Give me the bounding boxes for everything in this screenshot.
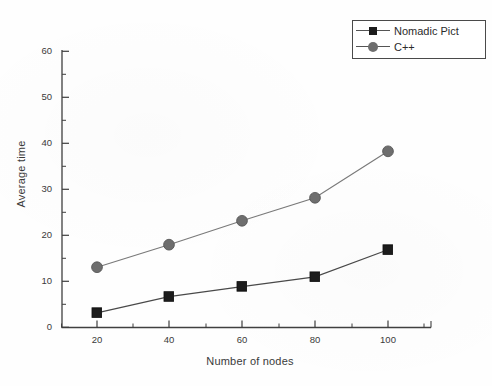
y-tick-label-40: 40: [26, 137, 52, 148]
legend-item-nomadic-pict[interactable]: Nomadic Pict: [356, 23, 481, 39]
data-point-cpp-40: [164, 239, 175, 250]
y-tick-label-30: 30: [26, 183, 52, 194]
data-point-nomadic-100: [383, 245, 393, 255]
y-tick-label-0: 0: [26, 321, 52, 332]
x-tick-label-20: 20: [80, 334, 114, 345]
data-point-nomadic-80: [310, 272, 320, 282]
series-markers-cpp: [92, 146, 394, 273]
x-tick-label-100: 100: [371, 334, 405, 345]
series-markers-nomadic-pict: [92, 245, 393, 318]
chart-legend: Nomadic Pict C++: [352, 20, 486, 59]
x-tick-label-40: 40: [152, 334, 186, 345]
square-marker-icon: [356, 24, 390, 38]
legend-label-nomadic-pict: Nomadic Pict: [390, 25, 459, 37]
data-point-cpp-20: [92, 262, 103, 273]
data-point-cpp-100: [383, 146, 394, 157]
y-tick-label-10: 10: [26, 275, 52, 286]
y-tick-label-20: 20: [26, 229, 52, 240]
circle-marker-icon: [356, 40, 390, 54]
y-major-ticks: [62, 51, 69, 327]
y-tick-label-50: 50: [26, 91, 52, 102]
data-point-nomadic-60: [237, 282, 247, 292]
x-major-ticks: [97, 321, 388, 328]
y-axis-title: Average time: [15, 129, 27, 219]
legend-item-cpp[interactable]: C++: [356, 39, 481, 55]
data-point-cpp-60: [237, 215, 248, 226]
legend-label-cpp: C++: [390, 41, 415, 53]
x-axis-title: Number of nodes: [160, 355, 340, 367]
x-tick-label-80: 80: [298, 334, 332, 345]
x-tick-label-60: 60: [225, 334, 259, 345]
data-point-nomadic-40: [164, 292, 174, 302]
chart-figure: 60 50 40 30 20 10 0 20 40 60 80 100 Aver…: [0, 0, 492, 386]
data-point-nomadic-20: [92, 308, 102, 318]
series-line-cpp: [97, 151, 388, 267]
y-tick-label-60: 60: [26, 45, 52, 56]
data-point-cpp-80: [310, 192, 321, 203]
